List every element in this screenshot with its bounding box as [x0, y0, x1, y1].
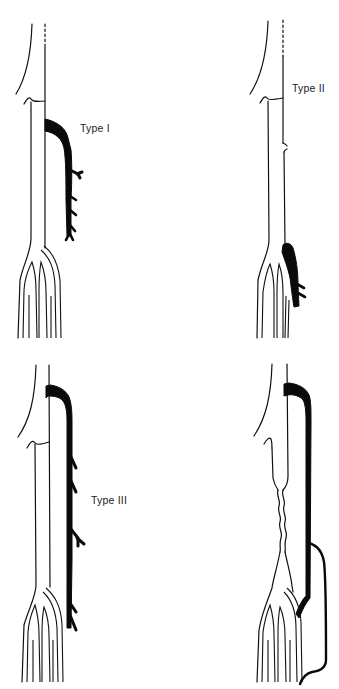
panel-type-2 [250, 20, 305, 338]
label-type-1: Type I [80, 122, 110, 134]
label-type-2: Type II [292, 82, 325, 94]
panel-type-3 [18, 365, 84, 682]
panel-type-4 [254, 364, 326, 684]
panel-type-1 [16, 24, 82, 338]
diagram-canvas [0, 0, 339, 689]
label-type-3: Type III [91, 494, 127, 506]
